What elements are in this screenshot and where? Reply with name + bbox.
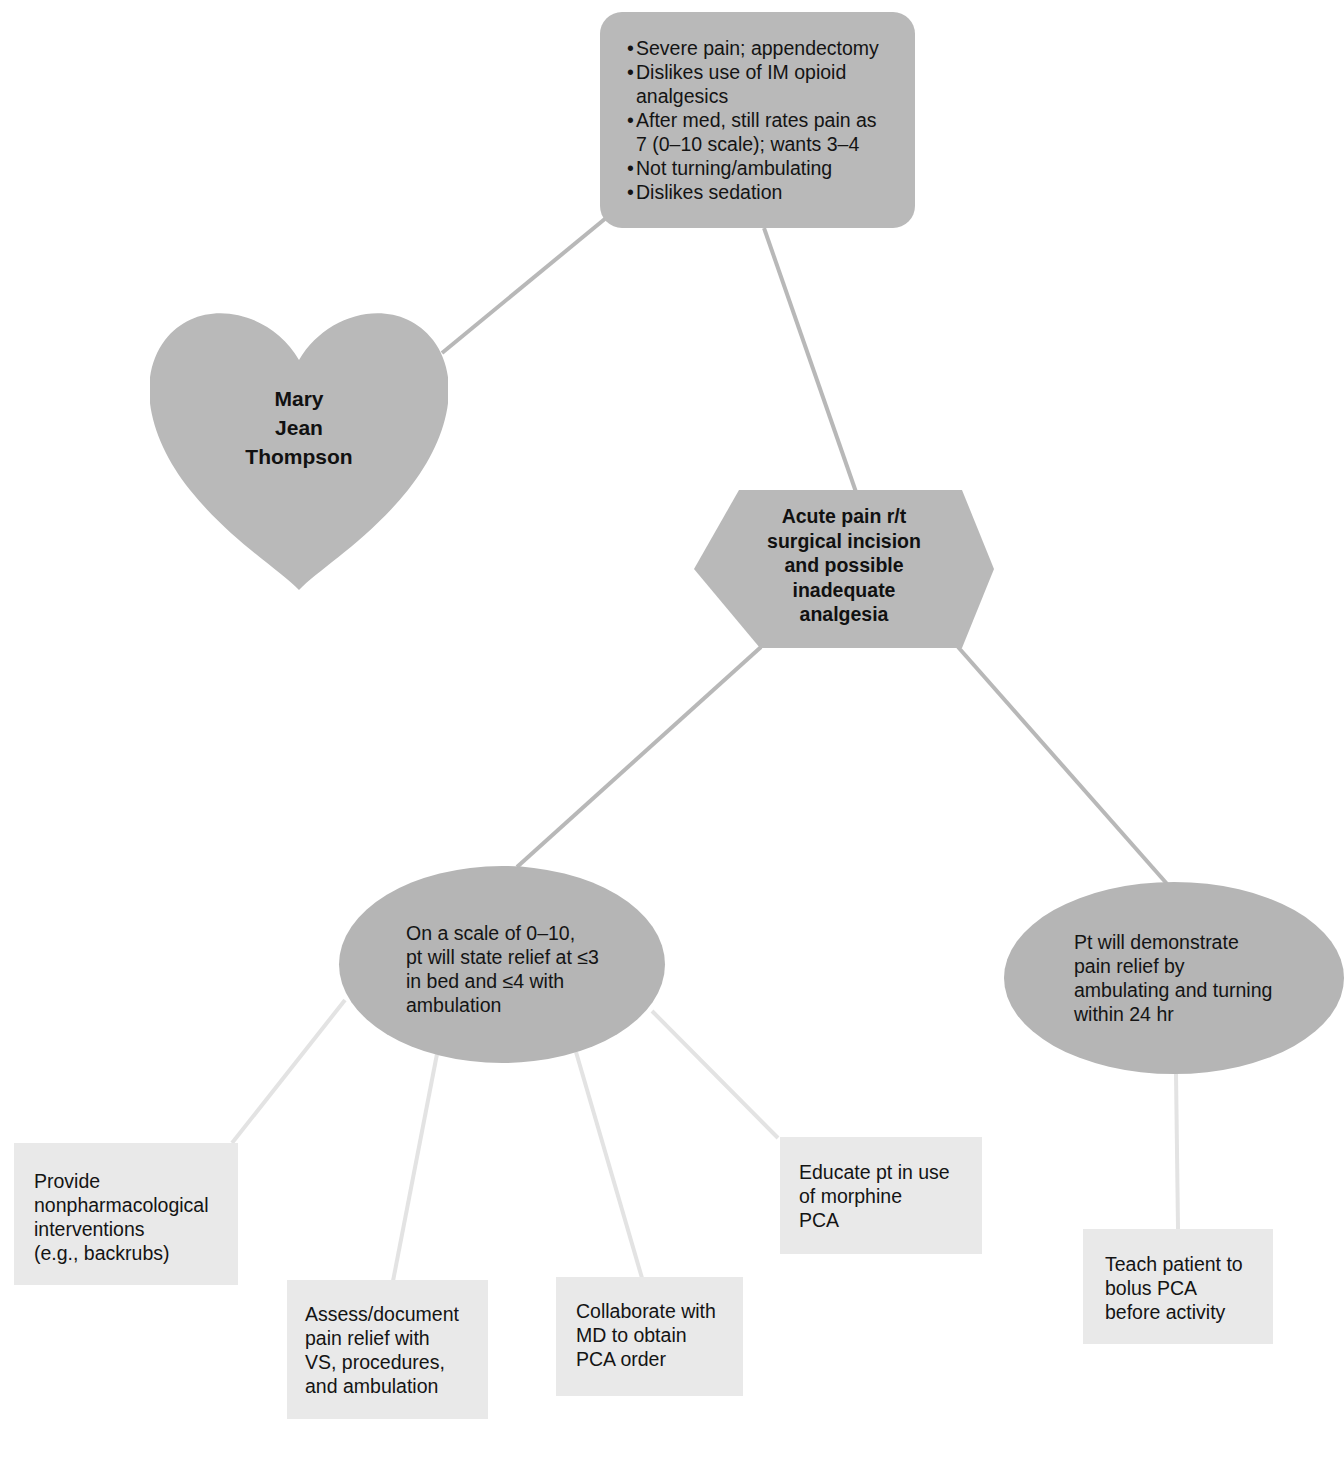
assessment-item: •Dislikes sedation — [636, 180, 915, 204]
diagnosis-label: Acute pain r/t surgical incision and pos… — [694, 504, 994, 627]
assessment-item: •Severe pain; appendectomy — [636, 36, 915, 60]
connector-goal1-intervention2 — [393, 1054, 437, 1281]
connector-diagnosis-goal1 — [517, 647, 761, 867]
connector-diagnosis-goal2 — [958, 647, 1168, 885]
assessment-item: •After med, still rates pain as7 (0–10 s… — [636, 108, 915, 156]
goal-2-ellipse: Pt will demonstrate pain relief by ambul… — [1004, 882, 1344, 1074]
assessment-item: •Not turning/ambulating — [636, 156, 915, 180]
intervention-box-educate-pca: Educate pt in use of morphine PCA — [780, 1137, 982, 1254]
intervention-box-collaborate-md: Collaborate with MD to obtain PCA order — [556, 1277, 743, 1396]
goal-1-ellipse: On a scale of 0–10, pt will state relief… — [339, 866, 665, 1063]
connector-goal1-intervention3 — [576, 1052, 642, 1278]
intervention-box-teach-bolus: Teach patient to bolus PCA before activi… — [1083, 1229, 1273, 1344]
connector-assessment-patient — [442, 218, 606, 353]
connector-goal1-intervention4 — [652, 1011, 778, 1138]
connector-assessment-diagnosis — [764, 228, 856, 492]
assessment-item: •Dislikes use of IM opioidanalgesics — [636, 60, 915, 108]
intervention-box-assess-document: Assess/document pain relief with VS, pro… — [287, 1280, 488, 1419]
patient-name: Mary Jean Thompson — [150, 384, 448, 471]
assessment-list: •Severe pain; appendectomy •Dislikes use… — [636, 36, 915, 204]
diagnosis-hexagon: Acute pain r/t surgical incision and pos… — [694, 490, 994, 648]
assessment-box: •Severe pain; appendectomy •Dislikes use… — [600, 12, 915, 228]
intervention-box-nonpharmacological: Provide nonpharmacological interventions… — [14, 1143, 238, 1285]
patient-heart: Mary Jean Thompson — [150, 300, 448, 590]
connector-goal1-intervention1 — [232, 1000, 345, 1143]
connector-goal2-intervention5 — [1176, 1073, 1178, 1229]
